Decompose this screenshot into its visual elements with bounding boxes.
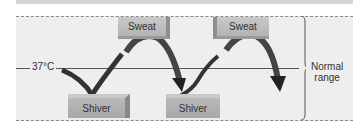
range-label-line1: Normal bbox=[311, 61, 343, 72]
arrow-down-up-2-icon bbox=[180, 56, 218, 96]
range-brace-icon bbox=[300, 16, 306, 120]
arrow-arc-1-icon bbox=[126, 36, 180, 82]
shiver-box-2: Shiver bbox=[166, 94, 220, 118]
arrowhead-1-icon bbox=[172, 78, 186, 92]
arrow-arc-2-icon bbox=[226, 35, 278, 80]
sweat-box-1: Sweat bbox=[118, 17, 170, 39]
sweat-label-1: Sweat bbox=[128, 21, 156, 32]
range-label-line2: range bbox=[311, 72, 343, 83]
arrow-down-up-1-icon bbox=[62, 54, 122, 95]
shiver-box-1: Shiver bbox=[68, 94, 130, 118]
shiver-label-1: Shiver bbox=[82, 103, 110, 114]
normal-range-label: Normal range bbox=[311, 61, 343, 83]
arrowhead-2-icon bbox=[270, 76, 286, 92]
sweat-label-2: Sweat bbox=[229, 21, 257, 32]
sweat-box-2: Sweat bbox=[213, 17, 269, 39]
shiver-label-2: Shiver bbox=[179, 103, 207, 114]
